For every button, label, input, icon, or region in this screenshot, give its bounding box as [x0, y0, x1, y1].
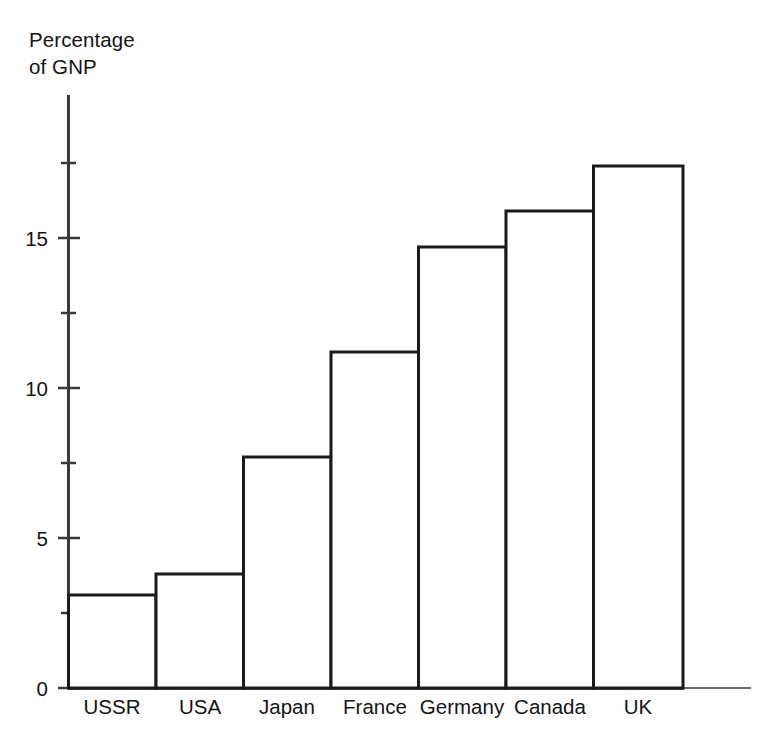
bars-group [69, 166, 684, 688]
bar-canada [506, 211, 594, 688]
bar-japan [244, 457, 332, 688]
x-tick-label-uk: UK [593, 697, 683, 718]
x-tick-label-usa: USA [156, 697, 244, 718]
x-tick-label-canada: Canada [506, 697, 594, 718]
bar-uk [594, 166, 684, 688]
y-tick-label-10: 10 [0, 379, 48, 400]
x-tick-label-ussr: USSR [68, 697, 156, 718]
x-tick-label-france: France [331, 697, 419, 718]
bar-chart-figure: Percentage of GNP [0, 0, 779, 752]
bar-france [331, 352, 419, 688]
x-tick-label-germany: Germany [418, 697, 506, 718]
y-tick-label-15: 15 [0, 229, 48, 250]
x-tick-label-japan: Japan [243, 697, 331, 718]
bar-germany [419, 247, 507, 688]
bar-usa [156, 574, 244, 688]
plot-area [0, 0, 779, 752]
y-tick-label-0: 0 [0, 679, 48, 700]
bar-ussr [69, 595, 157, 688]
y-tick-label-5: 5 [0, 529, 48, 550]
